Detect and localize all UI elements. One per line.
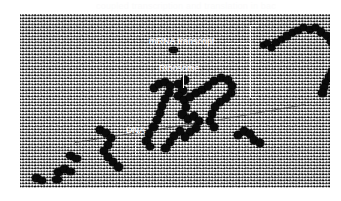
mrna-transcript-bracket [250,25,259,98]
leader-ribosome [183,75,184,88]
label-mrna-transcript: mRNA transcript [149,36,215,46]
leader-dna [135,140,136,154]
figure-root: coupled transcription and translation in… [0,0,341,201]
ghost-caption: coupled transcription and translation in… [96,1,276,12]
bracket-arm-bottom [250,97,259,98]
label-dna: DNA [126,125,145,135]
label-ribosome: Ribosome [159,63,200,73]
bracket-spine [250,25,251,98]
leader-mrna-transcript [225,43,250,44]
bracket-arm-top [250,25,259,26]
micrograph-plate: mRNA transcript Ribosome DNA [20,14,330,188]
